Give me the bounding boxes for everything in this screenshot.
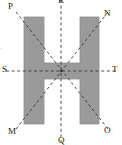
label-top-center: R [58,0,64,5]
label-t: T [112,65,118,74]
geometry-diagram: P N M O S T R Q . [0,0,122,145]
label-left-mark: . [0,44,2,51]
diagram-canvas [0,0,122,145]
label-o: O [104,126,111,135]
label-n: N [104,9,111,18]
label-s: S [2,65,7,74]
label-p: P [8,2,13,11]
label-bottom-center: Q [58,136,65,145]
center-point [60,70,62,72]
label-m: M [8,127,16,136]
